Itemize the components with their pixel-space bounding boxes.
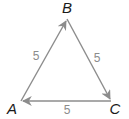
side-label-ab: 5 [33, 49, 40, 63]
vertex-label-a: A [6, 100, 17, 117]
side-label-ca: 5 [64, 103, 71, 117]
vertex-label-c: C [110, 100, 121, 117]
edge-b-c [67, 19, 110, 99]
side-label-bc: 5 [94, 51, 101, 65]
vertex-label-b: B [62, 0, 72, 16]
vector-triangle-diagram: 5 5 5 A B C [0, 0, 129, 119]
edge-a-b [21, 21, 66, 101]
